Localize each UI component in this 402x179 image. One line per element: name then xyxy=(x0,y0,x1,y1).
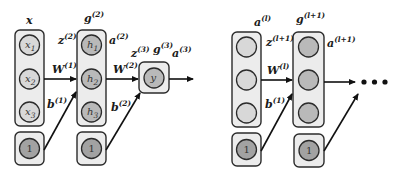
layer-l-label: a(l) xyxy=(254,14,272,29)
bias-l-label: b(1) xyxy=(265,96,285,111)
layer-l1-bias-unit: 1 xyxy=(294,134,324,167)
hidden-node-h2: h2 xyxy=(82,69,102,89)
input-bias-unit: 1 xyxy=(15,132,44,165)
input-node-x1: x1 xyxy=(20,35,40,55)
layer-l1-activation-label: g(l+1) xyxy=(296,11,326,26)
hidden-bias-unit: 1 xyxy=(77,132,106,165)
neural-network-diagram: x1 x2 x3 x 1 h1 h2 h3 g(2) z(2) xyxy=(0,0,402,179)
weights-2-label: W(2) xyxy=(113,61,138,76)
hidden-layer: h1 h2 h3 xyxy=(77,30,106,126)
svg-text:1: 1 xyxy=(27,143,33,154)
layer-l1-node-1 xyxy=(299,37,319,57)
input-vector-label: x xyxy=(25,14,33,27)
svg-text:1: 1 xyxy=(306,145,312,156)
svg-text:y: y xyxy=(150,72,157,83)
next-bias-arrow xyxy=(324,94,358,151)
output-activation-label: g(3) xyxy=(153,41,173,56)
layer-l1-preactivation-label: z(l+1) xyxy=(265,34,294,49)
hidden-node-h1: h1 xyxy=(82,35,102,55)
svg-text:1: 1 xyxy=(244,144,250,155)
layer-l-node-3 xyxy=(237,103,257,123)
output-layer: y xyxy=(139,62,169,93)
layer-l xyxy=(232,32,261,127)
input-node-x3: x3 xyxy=(20,102,40,122)
layer-l-bias-unit: 1 xyxy=(232,133,261,166)
layer-l1-node-2 xyxy=(299,70,319,90)
hidden-preactivation-label: z(2) xyxy=(57,32,77,47)
hidden-output-label: a(2) xyxy=(109,32,129,47)
continuation-ellipsis-icon xyxy=(361,79,387,84)
svg-text:1: 1 xyxy=(89,143,95,154)
layer-l1-output-label: a(l+1) xyxy=(327,35,356,50)
output-preactivation-label: z(3) xyxy=(130,45,150,60)
layer-l-node-1 xyxy=(237,37,257,57)
layer-l1-node-3 xyxy=(299,103,319,123)
hidden-node-h3: h3 xyxy=(82,102,102,122)
weights-l-label: W(l) xyxy=(267,62,290,77)
weights-1-label: W(1) xyxy=(52,61,77,76)
input-layer: x1 x2 x3 xyxy=(15,30,44,126)
layer-l-node-2 xyxy=(237,70,257,90)
output-activation-output-label: a(3) xyxy=(172,45,192,60)
hidden-activation-label: g(2) xyxy=(84,10,104,25)
input-node-x2: x2 xyxy=(20,69,40,89)
layer-l1 xyxy=(293,32,324,127)
bias-1-label: b(1) xyxy=(47,96,67,111)
